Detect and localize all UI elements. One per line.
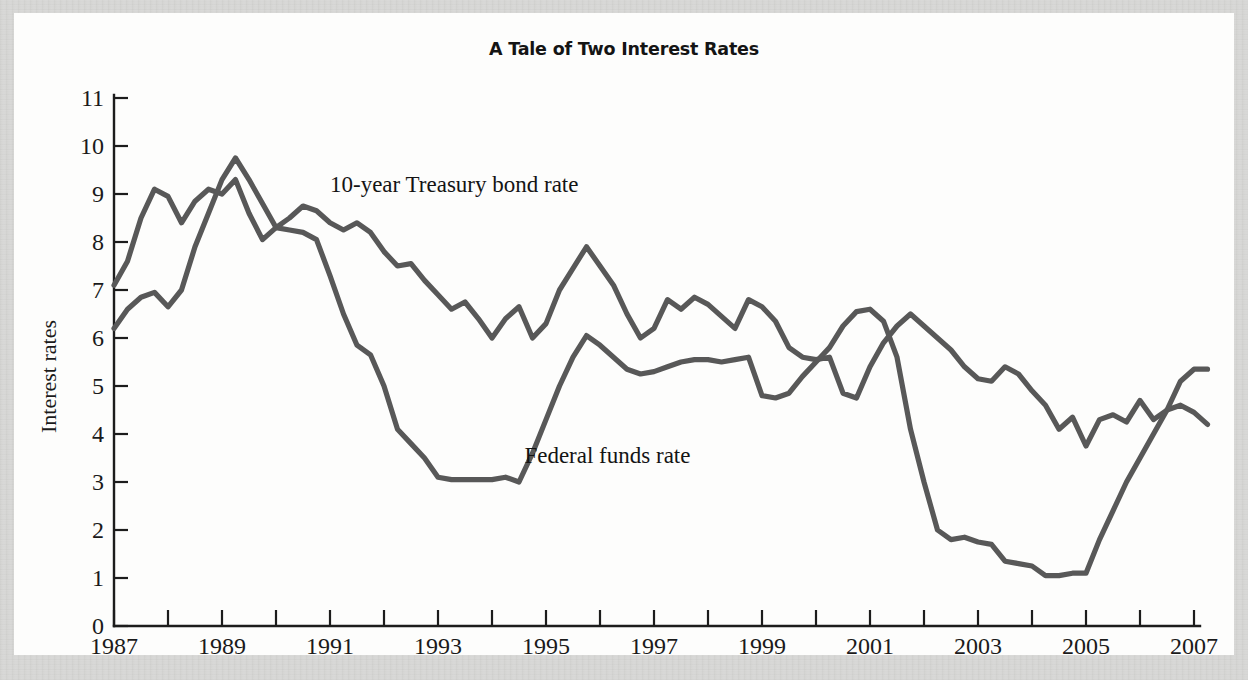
x-tick-label: 1991 <box>306 633 354 655</box>
y-tick-label: 3 <box>92 469 104 495</box>
x-tick-label: 2005 <box>1062 633 1110 655</box>
y-tick-label: 1 <box>92 565 104 591</box>
y-tick-label: 4 <box>92 421 104 447</box>
x-tick-label: 2007 <box>1170 633 1218 655</box>
y-tick-label: 7 <box>92 277 104 303</box>
x-tick-label: 2003 <box>954 633 1002 655</box>
x-axis-ticks: 1987198919911993199519971999200120032005… <box>90 610 1218 655</box>
figure-page: A Tale of Two Interest Rates 01234567891… <box>0 0 1248 680</box>
x-tick-label: 1995 <box>522 633 570 655</box>
y-tick-label: 9 <box>92 181 104 207</box>
y-tick-label: 10 <box>80 133 104 159</box>
y-tick-label: 6 <box>92 325 104 351</box>
y-tick-label: 8 <box>92 229 104 255</box>
y-tick-label: 5 <box>92 373 104 399</box>
x-tick-label: 1987 <box>90 633 138 655</box>
y-axis-ticks: 01234567891011 <box>80 85 128 639</box>
y-axis-title: Interest rates <box>36 320 61 433</box>
x-tick-label: 2001 <box>846 633 894 655</box>
x-tick-label: 1993 <box>414 633 462 655</box>
y-tick-label: 2 <box>92 517 104 543</box>
series-line-treasury-bond <box>114 180 1208 446</box>
series-label-federal-funds: Federal funds rate <box>524 443 690 468</box>
y-tick-label: 11 <box>81 85 104 111</box>
x-tick-label: 1999 <box>738 633 786 655</box>
x-tick-label: 1989 <box>198 633 246 655</box>
series-line-federal-funds <box>114 158 1208 576</box>
line-chart-plot: 01234567891011 1987198919911993199519971… <box>14 13 1234 655</box>
x-tick-label: 1997 <box>630 633 678 655</box>
series-label-treasury-bond: 10-year Treasury bond rate <box>330 172 578 197</box>
chart-figure: A Tale of Two Interest Rates 01234567891… <box>14 13 1234 655</box>
